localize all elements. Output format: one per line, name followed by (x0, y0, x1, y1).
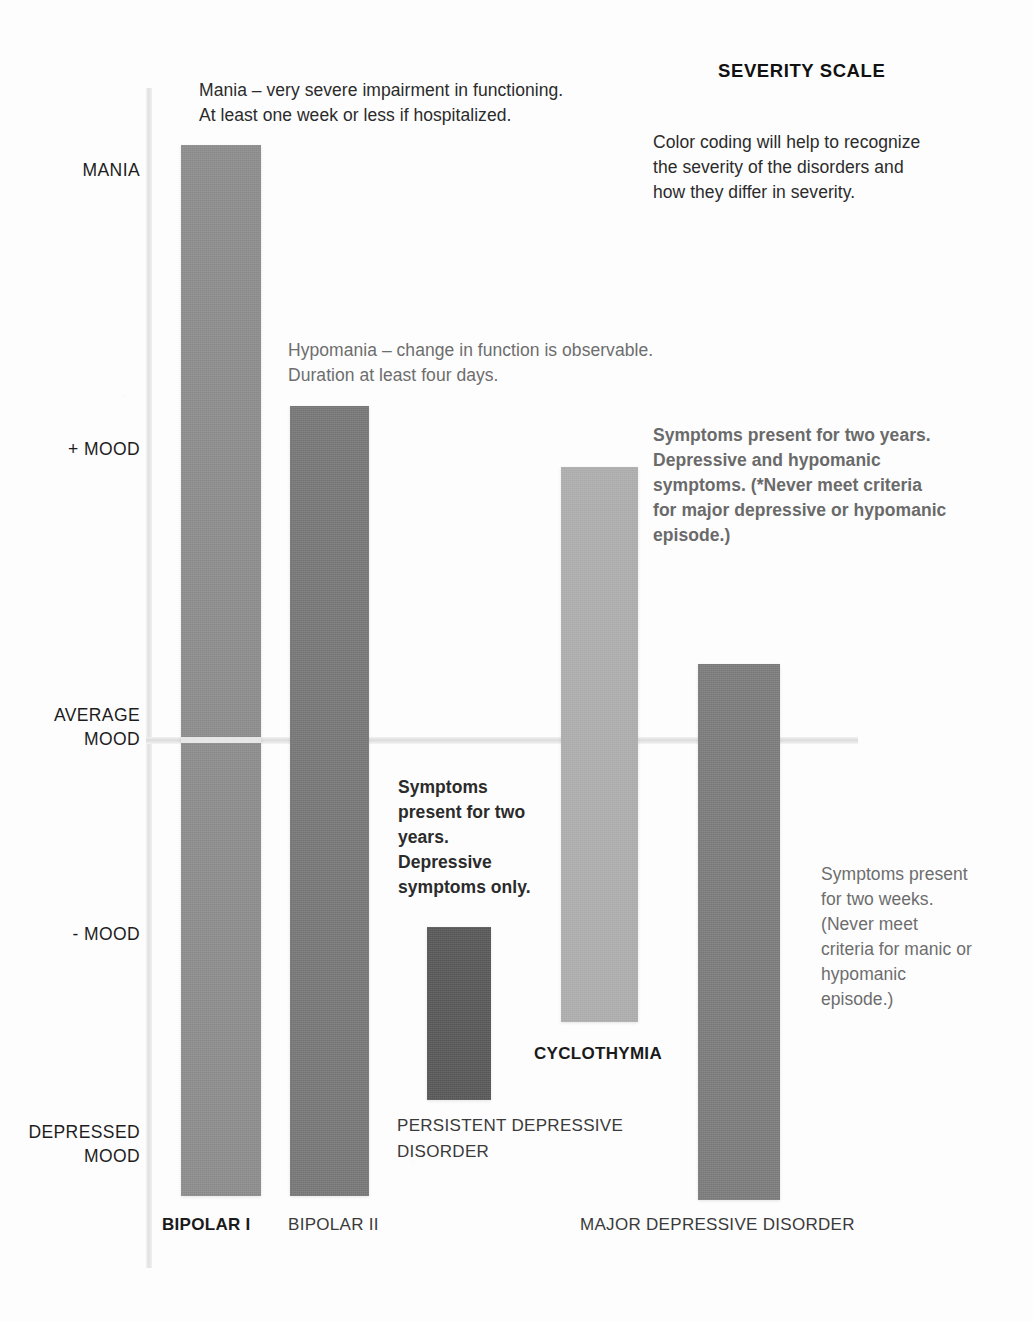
bar-label-bipolar-ii: BIPOLAR II (288, 1212, 379, 1237)
severity-scale-chart: MANIA + MOOD AVERAGE MOOD - MOOD DEPRESS… (0, 0, 1033, 1321)
baseline-highlight (181, 737, 261, 743)
bar-label-major-depressive-disorder: MAJOR DEPRESSIVE DISORDER (580, 1212, 855, 1237)
bar-bipolar-ii[interactable] (290, 406, 369, 1196)
bar-label-bipolar-i: BIPOLAR I (162, 1212, 251, 1237)
axis-label-minus-mood: - MOOD (20, 922, 140, 946)
annotation-hypomania: Hypomania – change in function is observ… (288, 338, 718, 388)
severity-description: Color coding will help to recognize the … (653, 130, 1003, 205)
axis-label-mania: MANIA (20, 158, 140, 182)
bar-persistent-depressive-disorder[interactable] (427, 927, 491, 1100)
axis-label-plus-mood: + MOOD (20, 437, 140, 461)
annotation-persistent-depressive: Symptoms present for two years. Depressi… (398, 775, 548, 900)
page-title: SEVERITY SCALE (718, 60, 885, 82)
y-axis-line (146, 88, 152, 1268)
bar-label-cyclothymia: CYCLOTHYMIA (534, 1041, 662, 1066)
annotation-mania: Mania – very severe impairment in functi… (199, 78, 659, 128)
axis-label-average-mood: AVERAGE MOOD (20, 703, 140, 751)
bar-bipolar-i[interactable] (181, 145, 261, 1196)
bar-cyclothymia[interactable] (561, 467, 638, 1022)
bar-major-depressive-disorder[interactable] (698, 664, 780, 1200)
annotation-major-depressive: Symptoms present for two weeks. (Never m… (821, 862, 1021, 1012)
bar-label-persistent-depressive-disorder: PERSISTENT DEPRESSIVE DISORDER (397, 1113, 627, 1165)
axis-label-depressed-mood: DEPRESSED MOOD (20, 1120, 140, 1168)
annotation-cyclothymia: Symptoms present for two years. Depressi… (653, 423, 1003, 548)
